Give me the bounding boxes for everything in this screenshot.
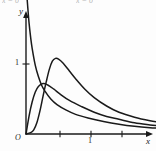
- x-axis-label: x: [146, 136, 150, 146]
- plot-canvas: [0, 0, 156, 151]
- curves-group: [26, 0, 156, 134]
- y-axis-label: y: [19, 6, 23, 16]
- y-tick-label-1: 1: [15, 58, 19, 67]
- x-tick-label-1: 1: [88, 136, 92, 145]
- curve-decaying-line: [26, 0, 156, 128]
- origin-label: O: [15, 133, 21, 142]
- density-curves-figure: x = 0 x = 0 y x O 1 1: [0, 0, 156, 151]
